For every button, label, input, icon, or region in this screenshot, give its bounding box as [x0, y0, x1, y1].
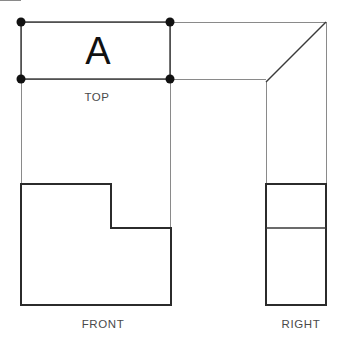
right-view-group — [266, 184, 326, 305]
orthographic-drawing-canvas: A TOP FRONT RIGHT — [0, 0, 344, 349]
right-view-rectangle — [266, 184, 326, 305]
front-view-group — [21, 184, 171, 305]
right-view-miter-group — [266, 22, 326, 82]
vertex-dot-bottom-right[interactable] — [166, 75, 175, 84]
view-label-top: TOP — [84, 91, 109, 103]
view-label-right: RIGHT — [282, 318, 321, 330]
view-label-front: FRONT — [82, 318, 125, 330]
construction-lines-group — [0, 0, 326, 229]
vertex-dot-bottom-left[interactable] — [17, 75, 26, 84]
front-view-outline — [21, 184, 171, 305]
vertex-dot-top-left[interactable] — [17, 18, 26, 27]
vertex-dot-top-right[interactable] — [166, 18, 175, 27]
right-view-miter-line — [266, 22, 326, 82]
drawing-svg: A TOP FRONT RIGHT — [0, 0, 344, 349]
surface-label-a: A — [85, 30, 111, 72]
